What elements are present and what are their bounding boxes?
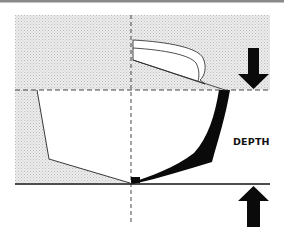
arrow-up-icon: [238, 186, 269, 227]
keel-fill: [131, 177, 140, 183]
top-rule: [0, 0, 284, 3]
depth-label: DEPTH: [233, 136, 270, 147]
hull-depth-diagram: [0, 0, 284, 237]
